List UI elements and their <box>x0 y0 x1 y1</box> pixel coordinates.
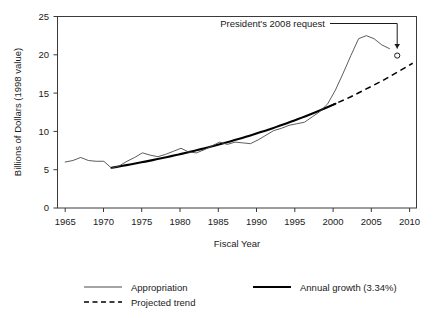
x-tick-label-2010: 2010 <box>399 216 420 227</box>
x-tick-label-2005: 2005 <box>361 216 382 227</box>
plot-frame <box>58 17 417 209</box>
x-tick-label-1990: 1990 <box>246 216 267 227</box>
y-axis-title: Billions of Dollars (1998 value) <box>12 48 23 176</box>
y-tick-label-10: 10 <box>38 126 49 137</box>
x-axis-title: Fiscal Year <box>214 238 260 249</box>
chart-legend: Appropriation Projected trend Annual gro… <box>84 282 397 308</box>
x-tick-label-1995: 1995 <box>284 216 305 227</box>
x-tick-label-1985: 1985 <box>208 216 229 227</box>
x-tick-label-1975: 1975 <box>131 216 152 227</box>
annotation-arrowhead <box>394 44 400 49</box>
request-marker-icon <box>395 53 400 58</box>
x-tick-label-1965: 1965 <box>55 216 76 227</box>
annotation-leader-line <box>330 24 397 49</box>
chart-figure: 0 5 10 15 20 25 1965 1970 1975 1980 1985… <box>0 0 439 318</box>
legend-label-projected-trend: Projected trend <box>131 297 195 308</box>
annotation-label: President's 2008 request <box>220 18 325 29</box>
legend-label-appropriation: Appropriation <box>131 282 188 293</box>
y-tick-label-0: 0 <box>44 202 49 213</box>
y-axis: 0 5 10 15 20 25 <box>38 11 57 214</box>
legend-label-annual-growth: Annual growth (3.34%) <box>300 282 397 293</box>
y-tick-label-5: 5 <box>44 164 49 175</box>
y-tick-label-15: 15 <box>38 88 49 99</box>
x-tick-label-1980: 1980 <box>169 216 190 227</box>
y-tick-label-20: 20 <box>38 49 49 60</box>
x-axis: 1965 1970 1975 1980 1985 1990 1995 2000 … <box>55 208 421 227</box>
x-tick-label-2000: 2000 <box>323 216 344 227</box>
y-tick-label-25: 25 <box>38 11 49 22</box>
series-line-annual-growth <box>112 104 336 168</box>
x-tick-label-1970: 1970 <box>93 216 114 227</box>
line-chart: 0 5 10 15 20 25 1965 1970 1975 1980 1985… <box>0 0 439 318</box>
